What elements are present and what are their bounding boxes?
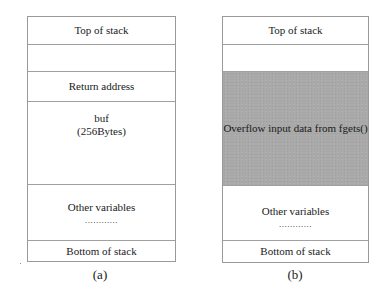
cell-empty	[223, 44, 368, 71]
ellipsis-dots: ............	[85, 216, 118, 224]
cell-empty	[28, 44, 175, 71]
caption-b: (b)	[275, 267, 315, 283]
stack-diagram-a: Top of stack Return address buf (256Byte…	[27, 16, 176, 262]
cell-overflow-data: Overflow input data from fgets()	[223, 71, 368, 185]
cell-return-address: Return address	[28, 71, 175, 101]
cell-top-of-stack: Top of stack	[28, 17, 175, 44]
cell-label: Bottom of stack	[260, 245, 330, 258]
cell-other-variables: Other variables ............	[223, 185, 368, 240]
cell-label: Top of stack	[268, 24, 322, 37]
cell-label: Other variables	[262, 205, 330, 218]
cell-label: Bottom of stack	[66, 245, 136, 258]
cell-label: Other variables	[68, 201, 136, 214]
cell-label: Overflow input data from fgets()	[223, 122, 367, 135]
cell-label: Return address	[69, 80, 135, 93]
cell-label: Top of stack	[74, 24, 128, 37]
cell-sublabel: (256Bytes)	[77, 125, 126, 138]
stack-diagram-b: Top of stack Overflow input data from fg…	[222, 16, 369, 263]
cell-bottom-of-stack: Bottom of stack	[28, 240, 175, 261]
cell-top-of-stack: Top of stack	[223, 17, 368, 44]
caption-a: (a)	[80, 267, 120, 283]
cell-bottom-of-stack: Bottom of stack	[223, 240, 368, 262]
cell-buf: buf (256Bytes)	[28, 101, 175, 184]
stray-dot	[20, 263, 21, 264]
cell-other-variables: Other variables ............	[28, 184, 175, 240]
ellipsis-dots: ............	[279, 220, 312, 228]
cell-label: buf	[94, 112, 109, 125]
